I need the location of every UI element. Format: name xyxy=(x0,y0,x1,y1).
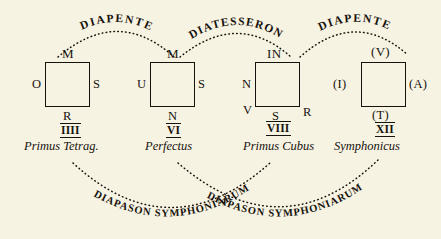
square-2-letter-top: M xyxy=(167,47,179,60)
square-3-letter-bottom-left: V xyxy=(243,104,252,117)
square-4-letter-right: (A) xyxy=(409,78,427,91)
square-2-letter-left: U xyxy=(137,78,146,91)
arc-label-diapason-2: DIAPASON SYMPHONIARUM xyxy=(206,181,365,219)
square-1-box xyxy=(45,62,90,107)
square-3-numeral: VIII xyxy=(266,121,291,136)
square-3-caption: Primus Cubus xyxy=(243,140,314,153)
square-2-numeral: VI xyxy=(166,123,181,138)
arc-diapente-2 xyxy=(300,32,408,57)
square-3-letter-bottom-right: R xyxy=(303,106,312,119)
square-2-letter-bottom: N xyxy=(168,110,177,123)
harmonic-proportion-diagram: DIAPENTE DIATESSERON DIAPENTE DIAPASON S… xyxy=(0,0,441,239)
square-1-letter-right: S xyxy=(93,78,100,91)
square-4-letter-left: (I) xyxy=(333,78,346,91)
square-2-letter-right: S xyxy=(198,78,205,91)
arc-label-diapente-2: DIAPENTE xyxy=(316,12,394,33)
arc-label-diapente-1: DIAPENTE xyxy=(78,12,156,33)
square-2-box xyxy=(150,62,195,107)
arc-diapente-1 xyxy=(58,32,174,58)
arc-label-diatesseron: DIATESSERON xyxy=(187,15,286,41)
square-3-letter-top: IN xyxy=(267,47,281,60)
square-4-letter-bottom: (T) xyxy=(372,109,389,122)
square-1-letter-top: M xyxy=(62,47,74,60)
square-2-caption: Perfectus xyxy=(145,140,192,153)
square-4-caption: Symphonicus xyxy=(334,140,400,153)
square-3-box xyxy=(255,62,300,107)
square-1-caption: Primus Tetrag. xyxy=(24,140,99,153)
square-1-letter-bottom: R xyxy=(63,110,72,123)
square-4-box xyxy=(361,62,406,107)
square-3-letter-left: N xyxy=(242,78,251,91)
square-4-letter-top: (V) xyxy=(371,45,390,58)
square-4-numeral: XII xyxy=(375,122,395,137)
square-1-letter-left: O xyxy=(32,78,41,91)
square-1-numeral: IIII xyxy=(60,123,81,138)
